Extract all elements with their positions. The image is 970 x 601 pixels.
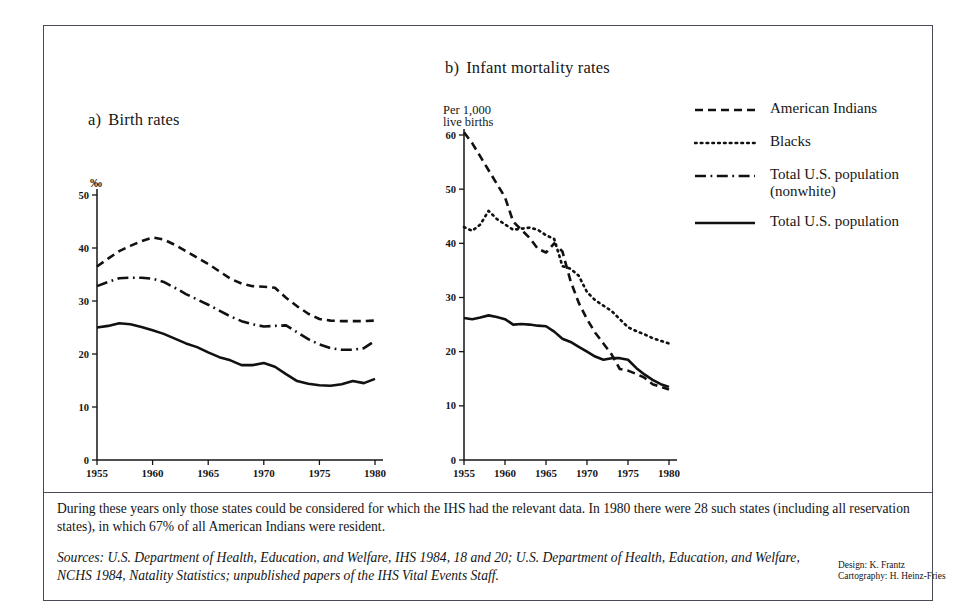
panel-b-title-text: Infant mortality rates — [466, 58, 610, 77]
legend-label: Total U.S. population — [770, 213, 899, 230]
figure-note: During these years only those states cou… — [57, 500, 919, 535]
caption-divider — [44, 492, 933, 493]
chart-axes — [464, 129, 677, 460]
y-tick-label: 60 — [446, 130, 457, 141]
x-tick-label: 1975 — [617, 467, 640, 479]
series-american-indians — [97, 237, 375, 321]
x-tick-label: 1965 — [197, 467, 220, 479]
legend-line-icon — [694, 102, 756, 116]
y-tick-label: 10 — [446, 400, 457, 411]
x-tick-label: 1980 — [364, 467, 387, 479]
series-blacks — [464, 211, 669, 344]
chart-infant-mortality-svg: 0102030405060195519601965197019751980 — [432, 125, 697, 485]
series-american-indians — [464, 132, 669, 389]
legend-total-us: Total U.S. population — [694, 213, 929, 233]
legend-label: American Indians — [770, 100, 877, 117]
x-tick-label: 1975 — [308, 467, 331, 479]
x-tick-label: 1980 — [658, 467, 681, 479]
legend-swatch-dash-dot — [694, 168, 756, 186]
chart-infant-mortality-rates: 0102030405060195519601965197019751980 — [432, 125, 697, 485]
y-tick-label: 50 — [446, 184, 457, 195]
panel-a-letter: a) — [88, 110, 101, 129]
panel-a-title: a)Birth rates — [88, 110, 180, 130]
credit-cartography: Cartography: H. Heinz-Fries — [838, 571, 958, 582]
legend-label: Blacks — [770, 133, 811, 150]
y-tick-label: 50 — [79, 190, 90, 201]
x-tick-label: 1965 — [535, 467, 558, 479]
y-tick-label: 20 — [446, 346, 457, 357]
x-tick-label: 1955 — [86, 467, 109, 479]
figure-sources: Sources: U.S. Department of Health, Educ… — [57, 549, 817, 584]
panel-a-title-text: Birth rates — [108, 110, 179, 129]
chart-birth-rates: 01020304050195519601965197019751980 — [60, 185, 400, 485]
legend-swatch-dashed — [694, 102, 756, 120]
legend-swatch-dotted — [694, 135, 756, 153]
chart-legend: American IndiansBlacksTotal U.S. populat… — [694, 100, 929, 246]
y-tick-label: 10 — [79, 402, 90, 413]
y-tick-label: 30 — [79, 296, 90, 307]
legend-total-us-nonwhite: Total U.S. population (nonwhite) — [694, 166, 929, 200]
panel-b-letter: b) — [445, 58, 459, 77]
x-tick-label: 1970 — [576, 467, 599, 479]
figure-credits: Design: K. Frantz Cartography: H. Heinz-… — [838, 560, 958, 582]
panel-b-title: b)Infant mortality rates — [445, 58, 610, 78]
x-tick-label: 1955 — [453, 467, 476, 479]
x-tick-label: 1960 — [494, 467, 517, 479]
legend-line-icon — [694, 215, 756, 229]
legend-line-icon — [694, 168, 756, 182]
legend-line-icon — [694, 135, 756, 149]
y-tick-label: 40 — [79, 243, 90, 254]
chart-birth-rates-svg: 01020304050195519601965197019751980 — [60, 185, 400, 485]
legend-swatch-solid — [694, 215, 756, 233]
series-total-u-s-population — [97, 323, 375, 386]
chart-axes — [97, 189, 383, 460]
y-tick-label: 40 — [446, 238, 457, 249]
y-tick-label: 0 — [451, 455, 456, 466]
y-tick-label: 20 — [79, 349, 90, 360]
legend-label: Total U.S. population (nonwhite) — [770, 166, 899, 200]
legend-american-indians: American Indians — [694, 100, 929, 120]
legend-blacks: Blacks — [694, 133, 929, 153]
series-total-u-s-population — [464, 315, 669, 387]
y-tick-label: 0 — [84, 455, 89, 466]
credit-design: Design: K. Frantz — [838, 560, 958, 571]
y-tick-label: 30 — [446, 292, 457, 303]
x-tick-label: 1970 — [253, 467, 275, 479]
x-tick-label: 1960 — [142, 467, 165, 479]
series-total-u-s-population-nonwhite — [97, 278, 375, 350]
